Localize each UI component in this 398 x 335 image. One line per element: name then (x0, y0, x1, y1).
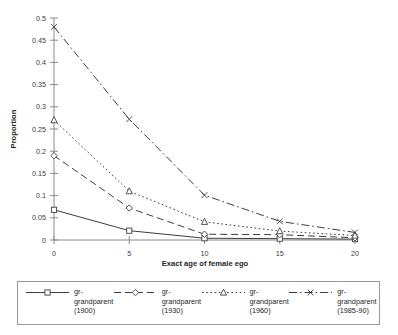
y-tick-label: 0 (42, 236, 46, 245)
chart-series (51, 24, 358, 235)
series-group (51, 24, 358, 242)
legend-item-label: gr- grandparent (1960) (250, 287, 289, 316)
y-tick-label: 0.05 (32, 213, 46, 222)
chart-series (51, 117, 358, 238)
x-tick-label: 20 (351, 249, 359, 258)
y-tick-label: 0.15 (32, 169, 46, 178)
legend-line-sample (200, 287, 247, 298)
x-axis-title: Exact age of female ego (162, 259, 249, 268)
legend: gr- grandparent (1900)gr- grandparent (1… (17, 281, 380, 325)
x-tick-label: 5 (127, 249, 131, 258)
y-tick-label: 0.2 (36, 147, 46, 156)
legend-item-label: gr- grandparent (1930) (162, 287, 201, 316)
line-chart-svg: 00.050.10.150.20.250.30.350.40.450.5 051… (0, 0, 398, 272)
data-point-triangle (220, 289, 226, 295)
y-axis-title: Proportion (9, 109, 18, 148)
chart-series (51, 152, 358, 241)
data-point-diamond (126, 205, 132, 211)
data-point-triangle (126, 188, 132, 194)
x-tick-label: 0 (52, 249, 56, 258)
y-tick-label: 0.5 (36, 14, 46, 23)
data-point-triangle (277, 228, 283, 234)
data-point-square (45, 290, 50, 295)
legend-line-sample (112, 287, 159, 298)
legend-line-sample (287, 287, 334, 298)
y-tick-label: 0.3 (36, 102, 46, 111)
data-point-triangle (201, 218, 207, 224)
legend-item[interactable]: gr- grandparent (1960) (200, 287, 288, 320)
legend-item[interactable]: gr- grandparent (1985-90) (287, 287, 375, 320)
series-polyline (54, 27, 355, 233)
legend-item[interactable]: gr- grandparent (1930) (112, 287, 200, 320)
y-tick-label: 0.35 (32, 80, 46, 89)
data-point-diamond (51, 152, 57, 158)
data-point-diamond (132, 289, 138, 295)
data-point-square (51, 207, 56, 212)
data-point-square (127, 228, 132, 233)
legend-item-label: gr- grandparent (1900) (74, 287, 113, 316)
x-tick-label: 15 (276, 249, 284, 258)
legend-item[interactable]: gr- grandparent (1900) (24, 287, 112, 320)
figure-container: 00.050.10.150.20.250.30.350.40.450.5 051… (0, 0, 398, 335)
legend-item-label: gr- grandparent (1985-90) (337, 287, 376, 316)
data-point-triangle (51, 117, 57, 123)
x-tick-label: 10 (201, 249, 209, 258)
legend-line-sample (24, 287, 71, 298)
y-tick-label: 0.1 (36, 191, 46, 200)
plot-area: 00.050.10.150.20.250.30.350.40.450.5 051… (0, 0, 398, 272)
series-polyline (54, 156, 355, 238)
y-tick-label: 0.25 (32, 125, 46, 134)
legend-entries: gr- grandparent (1900)gr- grandparent (1… (18, 282, 379, 324)
y-tick-label: 0.45 (32, 36, 46, 45)
y-tick-label: 0.4 (36, 58, 46, 67)
